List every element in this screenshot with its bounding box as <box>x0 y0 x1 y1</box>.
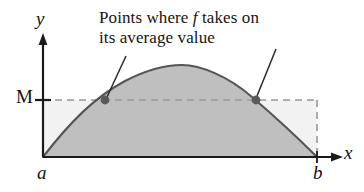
y-axis-arrowhead <box>39 33 48 45</box>
caption-text-line2: its average value <box>99 28 215 47</box>
average-value-point-right <box>252 96 261 105</box>
caption-text-part2: takes on <box>198 8 259 27</box>
y-axis-label: y <box>36 9 44 28</box>
annotation-caption: Points where f takes onits average value <box>99 8 319 48</box>
x-axis-arrowhead <box>331 153 343 162</box>
average-value-figure: Points where f takes onits average value… <box>0 0 364 192</box>
right-bound-label: b <box>313 163 323 182</box>
average-value-point-left <box>101 96 110 105</box>
leader-line-right <box>257 49 276 96</box>
left-bound-label: a <box>37 163 47 182</box>
x-axis-label: x <box>344 143 352 162</box>
caption-text-part1: Points where <box>99 8 193 27</box>
mean-value-label: M <box>16 87 33 106</box>
